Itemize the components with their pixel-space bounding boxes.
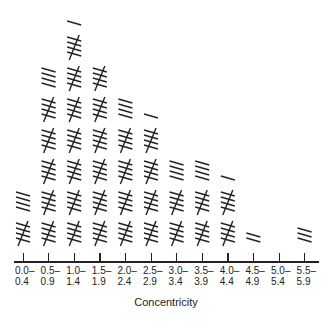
tally-stroke — [93, 68, 107, 72]
tally-stroke — [118, 104, 132, 108]
x-tick — [253, 253, 254, 261]
tally-chart: 0.0– 0.40.5– 0.91.0– 1.41.5– 1.92.0– 2.4… — [0, 0, 332, 321]
tally-stroke — [170, 192, 184, 196]
tally-stroke — [42, 73, 56, 77]
tally-stroke — [67, 135, 81, 139]
tally-stroke — [246, 233, 260, 237]
tally-stroke — [67, 192, 81, 196]
tally-stroke — [93, 207, 107, 211]
tally-stroke — [16, 207, 30, 211]
tally-stroke — [93, 135, 107, 139]
tally-stroke — [170, 171, 184, 175]
tally-stroke — [67, 52, 81, 56]
tally-stroke — [144, 238, 158, 242]
tally-stroke — [67, 223, 81, 227]
tally-stroke — [170, 176, 184, 180]
tally-stroke — [67, 99, 81, 103]
tally-stroke — [42, 238, 56, 242]
tally-stroke — [221, 197, 235, 201]
tally-stroke — [93, 238, 107, 242]
tally-stroke — [16, 223, 30, 227]
tally-stroke — [93, 104, 107, 108]
tally-stroke — [221, 223, 235, 227]
x-tick — [74, 253, 75, 261]
tally-stroke — [118, 145, 132, 149]
tally-stroke — [42, 207, 56, 211]
tally-stroke — [42, 135, 56, 139]
tally-stroke — [170, 197, 184, 201]
x-tick-label: 5.5– 5.9 — [297, 265, 327, 287]
tally-stroke — [42, 145, 56, 149]
tally-stroke — [67, 228, 81, 232]
tally-stroke — [16, 238, 30, 242]
tally-stroke — [42, 83, 56, 87]
tally-stroke — [195, 161, 209, 165]
tally-stroke — [93, 223, 107, 227]
tally-stroke — [67, 83, 81, 87]
tally-stroke — [118, 228, 132, 232]
tally-stroke — [93, 130, 107, 134]
tally-stroke — [144, 145, 158, 149]
tally-stroke — [93, 114, 107, 118]
tally-stroke — [93, 176, 107, 180]
tally-stroke — [195, 228, 209, 232]
tally-stroke — [42, 228, 56, 232]
tally-stroke — [170, 238, 184, 242]
tally-stroke — [144, 114, 158, 118]
tally-stroke — [144, 161, 158, 165]
tally-stroke — [221, 238, 235, 242]
x-tick — [202, 253, 203, 261]
x-tick — [125, 253, 126, 261]
tally-stroke — [170, 166, 184, 170]
tally-stroke — [93, 145, 107, 149]
tally-stroke — [298, 233, 312, 237]
tally-stroke — [67, 73, 81, 77]
tally-stroke — [42, 223, 56, 227]
tally-stroke — [118, 135, 132, 139]
tally-stroke — [67, 145, 81, 149]
tally-stroke — [118, 99, 132, 103]
tally-stroke — [42, 130, 56, 134]
tally-stroke — [42, 68, 56, 72]
tally-stroke — [246, 238, 260, 242]
tally-stroke — [67, 68, 81, 72]
tally-stroke — [118, 130, 132, 134]
tally-stroke — [67, 207, 81, 211]
tally-stroke — [144, 135, 158, 139]
tally-stroke — [67, 166, 81, 170]
tally-stroke — [93, 166, 107, 170]
x-tick — [151, 253, 152, 261]
tally-stroke — [118, 238, 132, 242]
tally-stroke — [170, 207, 184, 211]
tally-stroke — [195, 171, 209, 175]
tally-stroke — [42, 192, 56, 196]
tally-stroke — [221, 192, 235, 196]
tally-stroke — [16, 228, 30, 232]
tally-stroke — [144, 197, 158, 201]
x-tick — [304, 253, 305, 261]
tally-stroke — [93, 73, 107, 77]
tally-stroke — [67, 238, 81, 242]
tally-stroke — [298, 228, 312, 232]
tally-stroke — [16, 192, 30, 196]
tally-stroke — [118, 192, 132, 196]
tally-stroke — [42, 104, 56, 108]
x-axis-label: Concentricity — [0, 296, 332, 308]
tally-stroke — [144, 207, 158, 211]
tally-stroke — [42, 114, 56, 118]
tally-stroke — [67, 176, 81, 180]
tally-stroke — [144, 166, 158, 170]
tally-stroke — [42, 78, 56, 82]
tally-stroke — [118, 161, 132, 165]
tally-stroke — [170, 223, 184, 227]
tally-stroke — [118, 176, 132, 180]
tally-stroke — [67, 42, 81, 46]
tally-stroke — [195, 238, 209, 242]
tally-stroke — [93, 161, 107, 165]
tally-stroke — [221, 176, 235, 180]
tally-stroke — [195, 207, 209, 211]
tally-stroke — [195, 197, 209, 201]
tally-stroke — [42, 161, 56, 165]
tally-stroke — [42, 197, 56, 201]
tally-stroke — [42, 176, 56, 180]
